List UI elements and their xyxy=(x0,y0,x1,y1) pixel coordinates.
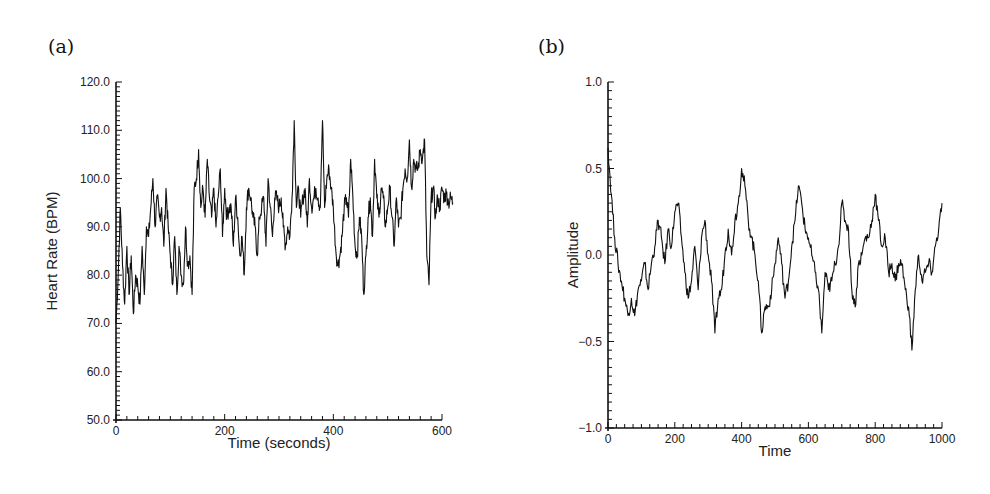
y-tick-label: 50.0 xyxy=(87,413,111,427)
y-tick-label: 100.0 xyxy=(80,172,110,186)
amplitude-chart: −1.0−0.50.00.51.002004006008001000TimeAm… xyxy=(564,75,956,459)
y-tick-label: 60.0 xyxy=(87,365,111,379)
y-tick-label: −0.5 xyxy=(578,335,602,349)
y-tick-label: 1.0 xyxy=(585,75,602,89)
y-tick-label: 120.0 xyxy=(80,75,110,89)
data-line xyxy=(116,121,453,324)
x-tick-label: 600 xyxy=(432,424,452,438)
x-axis-label: Time xyxy=(759,442,792,459)
data-line xyxy=(608,148,942,350)
y-tick-label: 80.0 xyxy=(87,268,111,282)
y-tick-label: 0.5 xyxy=(585,162,602,176)
x-tick-label: 0 xyxy=(605,432,612,446)
y-axis-label: Heart Rate (BPM) xyxy=(43,191,60,310)
x-tick-label: 1000 xyxy=(929,432,956,446)
y-tick-label: 70.0 xyxy=(87,316,111,330)
y-tick-label: 110.0 xyxy=(81,123,110,137)
x-axis-label: Time (seconds) xyxy=(228,434,331,451)
y-tick-label: 90.0 xyxy=(87,220,111,234)
y-axis-label: Amplitude xyxy=(564,222,581,289)
y-tick-label: 0.0 xyxy=(585,248,602,262)
x-tick-label: 800 xyxy=(865,432,885,446)
x-tick-label: 0 xyxy=(113,424,120,438)
y-tick-label: −1.0 xyxy=(578,421,602,435)
x-tick-label: 400 xyxy=(732,432,752,446)
heart-rate-chart: 50.060.070.080.090.0100.0110.0120.002004… xyxy=(43,75,453,451)
x-tick-label: 600 xyxy=(798,432,818,446)
chart-canvas: 50.060.070.080.090.0100.0110.0120.002004… xyxy=(0,0,990,494)
x-tick-label: 200 xyxy=(665,432,685,446)
